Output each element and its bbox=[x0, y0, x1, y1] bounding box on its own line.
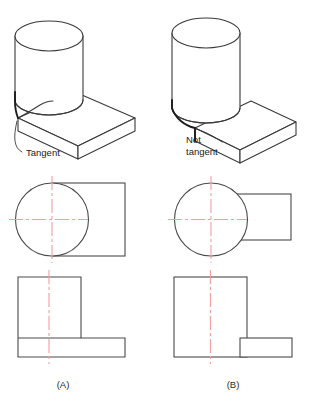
not-tangent-label-line1: Not bbox=[186, 134, 201, 145]
cylinder-top-ellipse-a bbox=[15, 21, 83, 51]
engineering-drawing-figure: Tangent Not tangent bbox=[0, 0, 313, 408]
caption-a: (A) bbox=[57, 379, 70, 390]
caption-b: (B) bbox=[227, 379, 240, 390]
cylinder-top-ellipse-b bbox=[172, 18, 240, 48]
tangent-label: Tangent bbox=[26, 147, 60, 158]
not-tangent-label-line2: tangent bbox=[186, 146, 218, 157]
drawing-canvas: Tangent Not tangent bbox=[0, 0, 313, 408]
front-view-slab-rect-b bbox=[240, 338, 292, 357]
